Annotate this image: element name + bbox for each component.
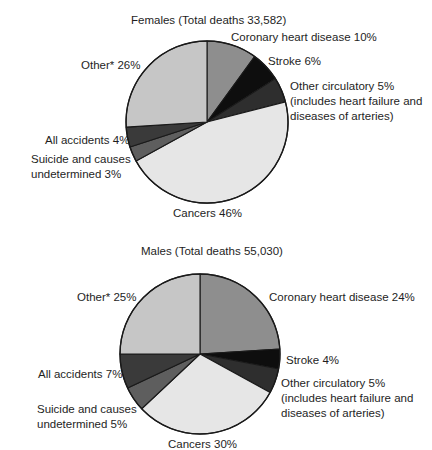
label-suicide-females-2: undetermined 3%	[31, 167, 121, 181]
label-cancers-males: Cancers 30%	[168, 437, 237, 450]
label-other-circ-females-1: Other circulatory 5%	[290, 79, 394, 93]
label-other-circ-females-2: (includes heart failure and	[290, 94, 422, 108]
label-suicide-females-1: Suicide and causes	[31, 152, 131, 166]
slice-other	[120, 274, 200, 354]
slice-coronary	[200, 274, 280, 354]
label-other-males: Other* 25%	[77, 290, 136, 304]
label-stroke-males: Stroke 4%	[286, 353, 339, 367]
label-accidents-females: All accidents 4%	[45, 133, 129, 147]
females-title: Females (Total deaths 33,582)	[131, 14, 286, 26]
label-other-circ-males-1: Other circulatory 5%	[281, 376, 385, 390]
label-suicide-males-2: undetermined 5%	[37, 417, 127, 431]
females-pie	[126, 41, 288, 203]
label-other-circ-males-2: (includes heart failure and	[281, 391, 413, 405]
label-other-circ-males-3: diseases of arteries)	[281, 406, 385, 420]
label-coronary-males: Coronary heart disease 24%	[269, 290, 415, 304]
label-other-females: Other* 26%	[81, 58, 140, 72]
label-coronary-females: Coronary heart disease 10%	[231, 30, 377, 44]
males-pie	[120, 274, 280, 434]
males-title: Males (Total deaths 55,030)	[141, 245, 283, 257]
label-cancers-females: Cancers 46%	[173, 206, 242, 220]
label-stroke-females: Stroke 6%	[268, 54, 321, 68]
label-other-circ-females-3: diseases of arteries)	[290, 109, 394, 123]
label-accidents-males: All accidents 7%	[38, 367, 122, 381]
slice-other	[126, 41, 207, 127]
label-suicide-males-1: Suicide and causes	[37, 402, 137, 416]
